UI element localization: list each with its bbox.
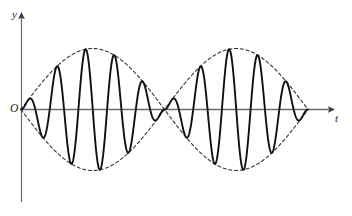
origin-label: O: [10, 103, 18, 115]
y-axis-label: y: [12, 9, 17, 20]
beat-wave-figure: y O t: [0, 0, 352, 216]
carrier-wave-curve: [21, 49, 308, 169]
t-axis-label: t: [335, 113, 338, 124]
wave-plot-svg: [0, 0, 352, 216]
